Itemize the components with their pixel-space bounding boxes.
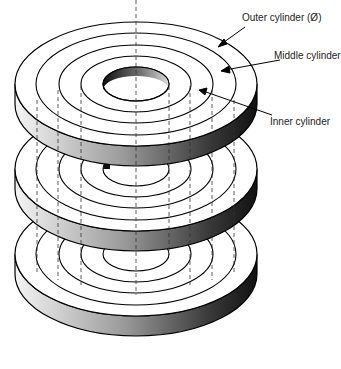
label-middle-cylinder: Middle cylinder (274, 50, 341, 61)
label-outer-cylinder: Outer cylinder (Ø) (242, 12, 321, 23)
label-inner-cylinder: Inner cylinder (270, 116, 330, 127)
